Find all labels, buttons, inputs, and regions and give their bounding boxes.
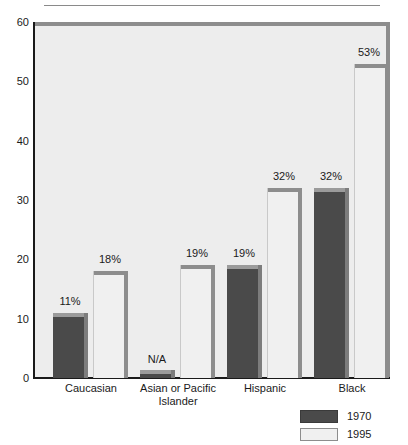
top-divider-rule bbox=[44, 5, 380, 6]
bar-label-black-1995: 53% bbox=[358, 47, 380, 58]
bar-label-hispanic-1970: 19% bbox=[233, 248, 255, 259]
bar-label-black-1970: 32% bbox=[320, 171, 342, 182]
bar-caucasian-1995 bbox=[93, 271, 128, 378]
x-axis-category-caucasian: Caucasian bbox=[65, 382, 117, 395]
bar-cap bbox=[53, 313, 88, 317]
bar-hispanic-1995 bbox=[267, 188, 302, 378]
bar-cap bbox=[94, 271, 128, 275]
legend-swatch-1970 bbox=[300, 410, 338, 423]
bar-label-caucasian-1995: 18% bbox=[99, 254, 121, 265]
bar-side bbox=[211, 265, 215, 378]
x-axis-category-asian-pacific-islander: Asian or Pacific Islander bbox=[140, 382, 216, 407]
bar-side bbox=[385, 64, 389, 378]
bar-cap bbox=[227, 265, 262, 269]
y-axis-tick-10: 10 bbox=[3, 314, 29, 325]
y-axis-tick-50: 50 bbox=[3, 76, 29, 87]
y-axis-line bbox=[33, 22, 35, 379]
legend-label-1995: 1995 bbox=[347, 429, 371, 440]
x-axis-category-black: Black bbox=[339, 382, 366, 395]
x-axis-category-hispanic: Hispanic bbox=[244, 382, 286, 395]
bar-cap bbox=[314, 188, 349, 192]
bar-hispanic-1970 bbox=[227, 265, 262, 378]
bar-side bbox=[345, 188, 349, 378]
legend-label-1970: 1970 bbox=[347, 411, 371, 422]
bar-side bbox=[258, 265, 262, 378]
y-axis-tick-60: 60 bbox=[3, 17, 29, 28]
bar-asian-pacific-islander-1970 bbox=[140, 370, 175, 378]
bar-side bbox=[84, 313, 88, 378]
bar-label-asian-pacific-islander-1995: 19% bbox=[186, 248, 208, 259]
bar-side bbox=[298, 188, 302, 378]
bar-side bbox=[124, 271, 128, 378]
bar-label-asian-pacific-islander-1970: N/A bbox=[148, 354, 166, 365]
legend-item-1995: 1995 bbox=[300, 427, 400, 442]
y-axis-tick-0: 0 bbox=[3, 373, 29, 384]
bar-black-1970 bbox=[314, 188, 349, 378]
y-axis-tick-40: 40 bbox=[3, 136, 29, 147]
bar-caucasian-1970 bbox=[53, 313, 88, 378]
bar-cap bbox=[355, 64, 389, 68]
bar-chart-figure: 0 10 20 30 40 50 60 11% 18% N/A 19% 19% … bbox=[0, 0, 408, 445]
bar-cap bbox=[140, 370, 175, 374]
bar-black-1995 bbox=[354, 64, 389, 378]
bar-label-caucasian-1970: 11% bbox=[59, 296, 80, 307]
bar-label-hispanic-1995: 32% bbox=[273, 171, 295, 182]
chart-legend: 1970 1995 bbox=[300, 409, 400, 445]
bar-asian-pacific-islander-1995 bbox=[180, 265, 215, 378]
legend-item-1970: 1970 bbox=[300, 409, 400, 424]
bar-cap bbox=[268, 188, 302, 192]
plot-top-rail bbox=[35, 22, 390, 26]
y-axis-tick-30: 30 bbox=[3, 195, 29, 206]
bar-cap bbox=[181, 265, 215, 269]
legend-swatch-1995 bbox=[300, 428, 338, 441]
bar-side bbox=[171, 370, 175, 378]
y-axis-tick-20: 20 bbox=[3, 254, 29, 265]
